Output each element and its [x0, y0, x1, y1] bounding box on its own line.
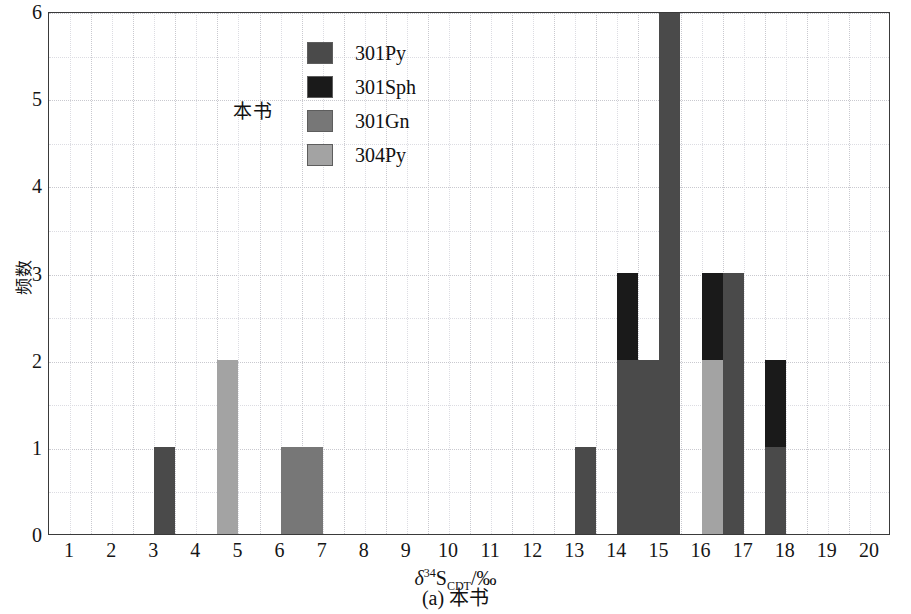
bar-segment-301sph [702, 273, 723, 360]
y-tick-label: 2 [4, 351, 42, 371]
legend-item: 301Sph [307, 70, 457, 104]
gridline-vertical [196, 13, 197, 534]
bar-segment-301py [617, 360, 638, 534]
legend-swatch-301gn [307, 110, 333, 132]
bar-segment-301py [659, 12, 680, 534]
legend-label: 301Gn [355, 110, 409, 132]
legend-item: 304Py [307, 138, 457, 172]
x-tick-label: 14 [596, 539, 636, 561]
x-tick-label: 6 [260, 539, 300, 561]
gridline-vertical [238, 13, 239, 534]
bar [575, 447, 596, 534]
gridline-vertical [512, 13, 513, 534]
bar-segment-301gn [302, 447, 323, 534]
gridline-vertical [681, 13, 682, 534]
bar-segment-301py [765, 447, 786, 534]
bar-segment-301py [575, 447, 596, 534]
gridline-vertical [175, 13, 176, 534]
x-tick-label: 15 [638, 539, 678, 561]
bar [302, 447, 323, 534]
bar [659, 12, 680, 534]
bar [617, 273, 638, 535]
histogram-figure: 0123456 频数 12345678910111213141516171819… [0, 0, 911, 614]
x-tick-label: 7 [302, 539, 342, 561]
gridline-horizontal [49, 57, 889, 58]
bar-segment-301py [154, 447, 175, 534]
legend-swatch-304py [307, 144, 333, 166]
legend-swatch-301py [307, 42, 333, 64]
gridline-horizontal [49, 275, 889, 276]
x-tick-label: 1 [49, 539, 89, 561]
bar [281, 447, 302, 534]
gridline-vertical [260, 13, 261, 534]
x-tick-label: 12 [512, 539, 552, 561]
gridline-vertical [70, 13, 71, 534]
x-tick-label: 3 [133, 539, 173, 561]
legend-swatch-301sph [307, 76, 333, 98]
y-tick-label: 4 [4, 176, 42, 196]
legend-item: 301Py [307, 36, 457, 70]
y-tick-label: 0 [4, 525, 42, 545]
gridline-vertical [744, 13, 745, 534]
gridline-vertical [596, 13, 597, 534]
bar-segment-304py [217, 360, 238, 534]
gridline-vertical [91, 13, 92, 534]
gridline-horizontal [49, 144, 889, 145]
x-tick-label: 9 [386, 539, 426, 561]
x-tick-label: 5 [217, 539, 257, 561]
x-tick-label: 18 [765, 539, 805, 561]
gridline-horizontal [49, 405, 889, 406]
x-tick-label: 19 [807, 539, 847, 561]
gridline-vertical [870, 13, 871, 534]
gridline-vertical [828, 13, 829, 534]
plot-area [48, 12, 890, 535]
x-tick-label: 10 [428, 539, 468, 561]
series-annotation: 本书 [233, 100, 273, 122]
gridline-vertical [133, 13, 134, 534]
y-tick-label: 1 [4, 438, 42, 458]
bar-segment-301sph [765, 360, 786, 447]
x-tick-label: 11 [470, 539, 510, 561]
x-tick-label: 8 [344, 539, 384, 561]
bar-segment-301sph [617, 273, 638, 360]
x-tick-label: 2 [91, 539, 131, 561]
gridline-vertical [112, 13, 113, 534]
bar-segment-301py [723, 273, 744, 535]
legend-item: 301Gn [307, 104, 457, 138]
bar [154, 447, 175, 534]
gridline-horizontal [49, 187, 889, 188]
figure-caption: (a) 本书 [0, 586, 911, 610]
bar [217, 360, 238, 534]
bar-segment-304py [702, 360, 723, 534]
gridline-vertical [849, 13, 850, 534]
gridline-vertical [786, 13, 787, 534]
gridline-vertical [491, 13, 492, 534]
legend-label: 301Py [355, 42, 406, 64]
bar-segment-301gn [281, 447, 302, 534]
gridline-horizontal [49, 231, 889, 232]
x-axis-title-superscript: 34 [424, 566, 436, 580]
gridline-vertical [807, 13, 808, 534]
gridline-horizontal [49, 318, 889, 319]
bar-segment-301py [638, 360, 659, 534]
legend-label: 301Sph [355, 76, 416, 98]
gridline-vertical [554, 13, 555, 534]
x-tick-label: 20 [849, 539, 889, 561]
y-axis-title: 频数 [15, 247, 33, 307]
bar [702, 273, 723, 535]
bar [765, 360, 786, 534]
y-tick-label: 6 [4, 2, 42, 22]
y-tick-label: 5 [4, 89, 42, 109]
bar [638, 360, 659, 534]
gridline-vertical [470, 13, 471, 534]
bar [723, 273, 744, 535]
gridline-horizontal [49, 100, 889, 101]
legend-label: 304Py [355, 144, 406, 166]
chart-legend: 301Py 301Sph 301Gn 304Py [307, 36, 457, 172]
x-tick-label: 16 [681, 539, 721, 561]
x-tick-label: 13 [554, 539, 594, 561]
gridline-horizontal [49, 362, 889, 363]
gridline-vertical [533, 13, 534, 534]
x-tick-label: 4 [175, 539, 215, 561]
gridline-horizontal [49, 13, 889, 14]
